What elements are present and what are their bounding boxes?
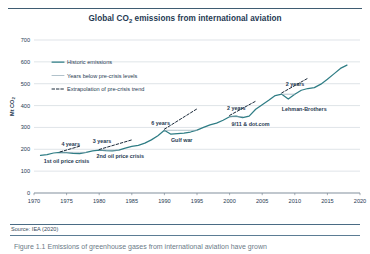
x-tick-label: 2020	[354, 198, 366, 204]
chart-annotation: 2 years	[227, 105, 246, 111]
x-tick-label: 2005	[256, 198, 268, 204]
y-tick-label: 400	[21, 103, 30, 109]
legend-label: Years below pre-crisis levels	[67, 73, 138, 79]
chart-annotation: Gulf war	[171, 137, 193, 143]
y-axis-label-main: Mt CO	[9, 100, 15, 116]
chart-annotation: 1st oil price crisis	[44, 158, 90, 164]
chart-title: Global CO2 emissions from international …	[0, 14, 370, 23]
x-tick-label: 2010	[289, 198, 301, 204]
x-tick-label: 1985	[126, 198, 138, 204]
y-tick-label: 500	[21, 81, 30, 87]
chart-title-main: Global CO	[88, 14, 128, 23]
source-divider-top	[10, 224, 360, 225]
chart-annotation: 2nd oil price crisis	[97, 153, 144, 159]
top-divider	[8, 8, 362, 9]
chart-annotation: Lehman-Brothers	[282, 106, 327, 112]
x-tick-label: 1990	[158, 198, 170, 204]
y-tick-label: 700	[21, 37, 30, 43]
line-chart-svg: 0100200300400500600700197019751980198519…	[0, 30, 370, 218]
y-tick-label: 600	[21, 59, 30, 65]
x-tick-label: 1995	[191, 198, 203, 204]
chart-annotation: 2 years	[286, 81, 305, 87]
x-tick-label: 1980	[93, 198, 105, 204]
chart-title-rest: emissions from international aviation	[132, 14, 281, 23]
plot-area: Mt CO2 010020030040050060070019701975198…	[0, 30, 370, 218]
legend-label: Historic emissions	[67, 59, 112, 65]
source-note: Source: IEA (2020)	[11, 226, 58, 232]
figure-page: Global CO2 emissions from international …	[0, 0, 370, 254]
y-tick-label: 100	[21, 168, 30, 174]
y-tick-label: 300	[21, 124, 30, 130]
x-tick-label: 1970	[28, 198, 40, 204]
chart-annotation: 3 years	[93, 138, 112, 144]
y-tick-label: 0	[27, 190, 30, 196]
figure-caption: Figure 1.1 Emissions of greenhouse gases…	[14, 243, 360, 254]
chart-title-subscript: 2	[129, 18, 132, 24]
chart-annotation: 9/11 & dot.com	[232, 121, 270, 127]
x-tick-label: 2015	[321, 198, 333, 204]
legend-label: Extrapolation of pre-crisis trend	[67, 86, 144, 92]
x-tick-label: 2000	[223, 198, 235, 204]
y-axis-label-subscript: 2	[11, 97, 16, 99]
y-axis-label: Mt CO2	[9, 106, 15, 116]
chart-annotation: 6 years	[151, 120, 170, 126]
x-tick-label: 1975	[60, 198, 72, 204]
source-divider-bottom	[10, 235, 360, 236]
y-tick-label: 200	[21, 146, 30, 152]
chart-annotation: 4 years	[61, 141, 80, 147]
